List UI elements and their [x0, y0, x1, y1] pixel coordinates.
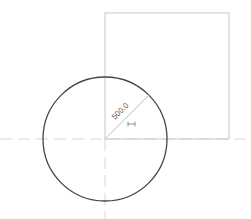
sketch-svg: 500.0: [0, 0, 251, 219]
sketch-canvas[interactable]: 500.0: [0, 0, 251, 219]
radius-dimension-label[interactable]: 500.0: [110, 101, 131, 122]
horizontal-distance-icon[interactable]: [128, 122, 135, 127]
